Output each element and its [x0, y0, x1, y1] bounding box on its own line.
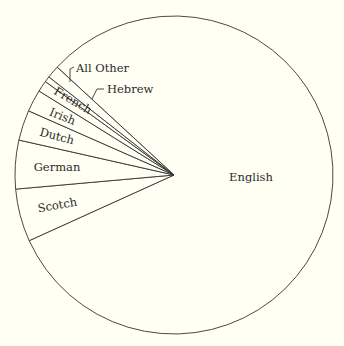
- label-hebrew: Hebrew: [107, 82, 153, 96]
- pie-slices: [15, 16, 333, 334]
- label-english: English: [229, 170, 273, 184]
- label-german: German: [34, 160, 81, 174]
- label-all-other: All Other: [75, 61, 130, 75]
- pie-chart: English Scotch German Dutch Irish French…: [0, 0, 344, 346]
